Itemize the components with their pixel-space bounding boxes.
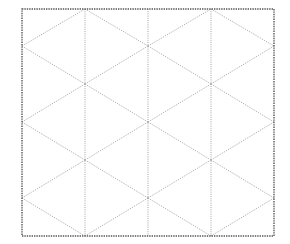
diagonal-grid-line <box>22 9 85 46</box>
diagonal-grid-line <box>85 160 148 198</box>
diagonal-grid-line <box>148 46 211 84</box>
diagonal-grid-line <box>85 198 148 236</box>
diagonal-grid-line <box>148 198 211 236</box>
diagonal-grid-line <box>211 122 274 160</box>
diagonal-grid-line <box>211 198 274 236</box>
diagonal-grid-line <box>85 84 148 122</box>
diagonal-grid-line <box>22 198 85 236</box>
triangle-grid-diagram <box>0 0 290 244</box>
diagonal-grid-line <box>148 84 211 122</box>
diagonal-grid-line <box>85 9 148 46</box>
grid-lines <box>22 9 274 236</box>
diagonal-grid-line <box>211 46 274 84</box>
diagonal-grid-line <box>211 9 274 46</box>
diagonal-grid-line <box>22 160 85 198</box>
diagonal-grid-line <box>22 46 85 84</box>
diagonal-grid-line <box>148 160 211 198</box>
diagonal-grid-line <box>148 9 211 46</box>
diagonal-grid-line <box>22 84 85 122</box>
diagonal-grid-line <box>85 46 148 84</box>
diagonal-grid-line <box>148 122 211 160</box>
diagonal-grid-line <box>85 122 148 160</box>
diagonal-grid-line <box>211 84 274 122</box>
diagonal-grid-line <box>211 160 274 198</box>
diagonal-grid-line <box>22 122 85 160</box>
